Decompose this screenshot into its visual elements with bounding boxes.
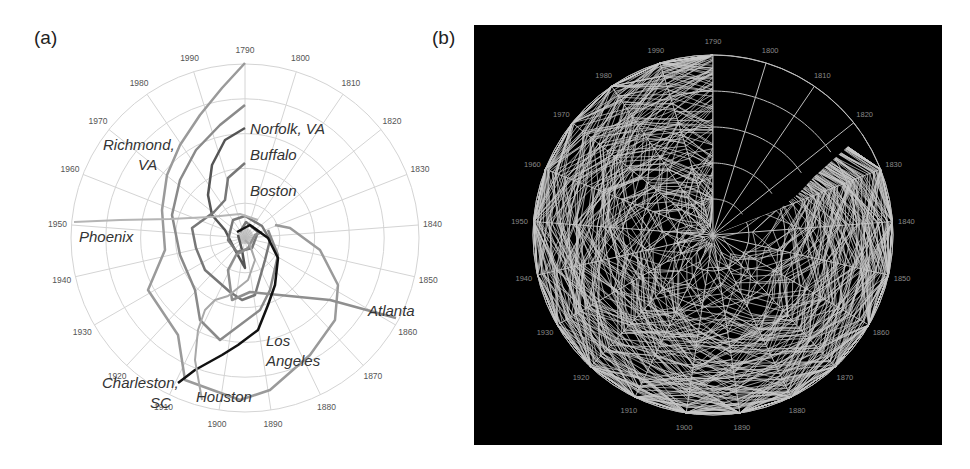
angular-tick-label: 1900 [676, 423, 693, 432]
angular-tick-label: 1820 [383, 116, 402, 126]
angular-tick-label: 1970 [89, 116, 108, 126]
angular-tick-label: 1930 [537, 328, 554, 337]
angular-tick-label: 1840 [423, 219, 442, 229]
angular-tick-label: 1830 [411, 164, 430, 174]
angular-tick-label: 1990 [180, 53, 199, 63]
angular-tick-label: 1870 [363, 371, 382, 381]
angular-tick-label: 1880 [317, 402, 336, 412]
series-label: Richmond, [103, 136, 175, 153]
angular-tick-label: 1960 [61, 164, 80, 174]
angular-tick-label: 1850 [419, 275, 438, 285]
angular-tick-label: 1810 [814, 71, 831, 80]
angular-tick-label: 1980 [595, 71, 612, 80]
angular-tick-label: 1950 [48, 219, 67, 229]
angular-tick-label: 1900 [208, 419, 227, 429]
series-label: Houston [196, 388, 252, 405]
angular-tick-label: 1850 [894, 274, 911, 283]
angular-tick-label: 1990 [647, 46, 664, 55]
angular-tick-label: 1940 [516, 274, 533, 283]
angular-tick-label: 1970 [553, 110, 570, 119]
angular-tick-label: 1870 [837, 373, 854, 382]
angular-tick-label: 1860 [873, 328, 890, 337]
angular-tick-label: 1920 [573, 373, 590, 382]
angular-tick-label: 1930 [73, 327, 92, 337]
series-label: Angeles [265, 352, 321, 369]
angular-tick-label: 1800 [291, 53, 310, 63]
series-label: Buffalo [250, 146, 297, 163]
series-label: Atlanta [367, 302, 415, 319]
series-label: Phoenix [79, 228, 134, 245]
angular-tick-label: 1840 [898, 217, 915, 226]
angular-tick-label: 1800 [762, 46, 779, 55]
angular-tick-label: 1880 [789, 406, 806, 415]
angular-tick-label: 1980 [130, 78, 149, 88]
angular-tick-label: 1940 [52, 275, 71, 285]
angular-tick-label: 1820 [856, 110, 873, 119]
angular-tick-label: 1790 [705, 37, 722, 46]
angular-tick-label: 1830 [885, 160, 902, 169]
radial-chart-b-panel: 1790180018101820183018401850186018701880… [474, 25, 942, 445]
series-line-phoenix [74, 214, 258, 222]
series-label: Los [266, 332, 291, 349]
series-label: SC [150, 394, 171, 411]
series-label: Boston [250, 182, 297, 199]
angular-tick-label: 1810 [341, 78, 360, 88]
angular-tick-label: 1950 [511, 217, 528, 226]
angular-tick-label: 1890 [264, 419, 283, 429]
series-label: Norfolk, VA [250, 120, 325, 137]
radial-chart-a: 1790180018101820183018401850186018701880… [0, 0, 470, 469]
series-label: VA [138, 156, 157, 173]
angular-tick-label: 1860 [398, 327, 417, 337]
angular-tick-label: 1890 [734, 423, 751, 432]
angular-tick-label: 1960 [524, 160, 541, 169]
series-label: Charleston, [102, 374, 179, 391]
angular-tick-label: 1790 [236, 45, 255, 55]
angular-tick-label: 1910 [620, 406, 637, 415]
radial-chart-b: 1790180018101820183018401850186018701880… [474, 25, 942, 445]
